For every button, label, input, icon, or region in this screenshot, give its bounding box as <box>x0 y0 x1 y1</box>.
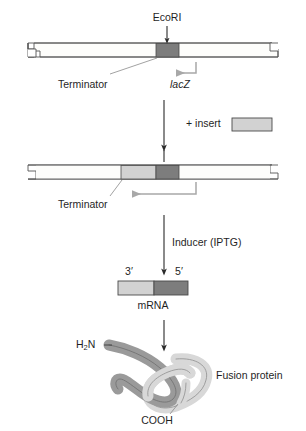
label-n-terminus: H2N <box>76 339 95 352</box>
lacz-promoter-arrow-recombinant <box>135 182 196 194</box>
vector-backbone <box>28 43 278 57</box>
label-terminator-recombinant: Terminator <box>58 199 108 210</box>
label-insert-operation: + insert <box>186 118 221 129</box>
figure-canvas: EcoRI Terminator lacZ + insert Terminato… <box>0 0 306 431</box>
vector-construct-top <box>28 43 278 57</box>
label-mrna: mRNA <box>138 300 169 311</box>
label-fusion-protein: Fusion protein <box>216 370 283 381</box>
mrna-insert-region <box>118 281 154 295</box>
label-three-prime: 3′ <box>125 266 133 277</box>
label-terminator-top: Terminator <box>58 79 108 90</box>
inserted-fragment <box>121 166 156 180</box>
label-lacz: lacZ <box>170 79 190 90</box>
n-terminus-n: N <box>88 338 96 350</box>
label-ecori: EcoRI <box>153 12 182 23</box>
label-inducer-iptg: Inducer (IPTG) <box>172 237 241 248</box>
terminator-leader-top <box>110 58 157 74</box>
vector-construct-recombinant <box>28 165 278 179</box>
diagram-svg <box>0 0 306 431</box>
terminator-leader-recombinant <box>110 180 122 196</box>
label-five-prime: 5′ <box>175 266 183 277</box>
label-c-terminus: COOH <box>141 415 173 426</box>
fusion-protein-ribbon <box>109 345 207 408</box>
lacz-segment <box>156 44 179 58</box>
n-terminus-h: H <box>76 338 84 350</box>
mrna-bar <box>118 281 188 295</box>
right-sticky-end-2 <box>270 165 278 179</box>
insert-fragment-swatch <box>232 118 272 131</box>
left-sticky-end-2 <box>28 165 36 179</box>
lacz-segment-2 <box>156 166 179 180</box>
lacz-promoter-arrow-top <box>179 62 196 73</box>
mrna-lacz-region <box>154 281 188 295</box>
